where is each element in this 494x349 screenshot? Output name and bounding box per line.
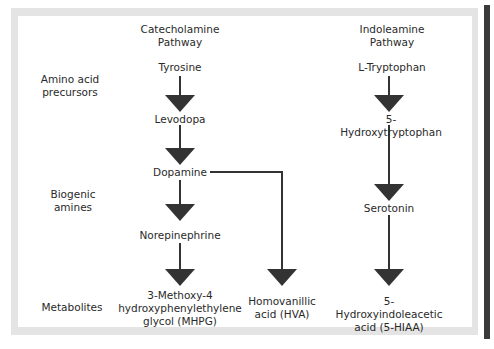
node-norepinephrine: Norepinephrine — [139, 229, 220, 242]
arrow-serotonin-5hiaa — [374, 215, 404, 286]
node-tyrosine: Tyrosine — [158, 61, 201, 74]
arrow-levodopa-dopamine — [165, 125, 195, 165]
catecholamine-pathway-title: Catecholamine Pathway — [141, 23, 220, 49]
node-5-hydroxytryptophan: 5-Hydroxytryptophan — [340, 113, 443, 139]
node-hva: Homovanillic acid (HVA) — [248, 295, 316, 321]
row-label-metabolites: Metabolites — [41, 301, 102, 314]
arrow-tyrosine-levodopa — [165, 76, 195, 112]
node-5-hiaa: 5-Hydroxyindoleacetic acid (5-HIAA) — [336, 295, 443, 334]
indoleamine-pathway-title: Indoleamine Pathway — [360, 23, 425, 49]
row-label-biogenic-amines: Biogenic amines — [50, 188, 95, 214]
node-serotonin: Serotonin — [364, 202, 414, 215]
node-l-tryptophan: L-Tryptophan — [358, 61, 426, 74]
arrow-dopamine-norepinephrine — [165, 180, 195, 221]
node-dopamine: Dopamine — [153, 166, 207, 179]
arrow-dopamine-hva — [210, 172, 297, 286]
node-mhpg: 3-Methoxy-4 hydroxyphenylethylene glycol… — [118, 289, 242, 328]
arrow-tryptophan-5htp — [374, 76, 404, 112]
node-levodopa: Levodopa — [155, 113, 206, 126]
arrow-norepinephrine-mhpg — [165, 243, 195, 286]
row-label-amino-acid-precursors: Amino acid precursors — [41, 73, 100, 99]
